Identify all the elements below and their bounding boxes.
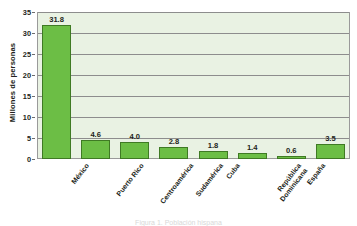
y-tick-mark-30 (32, 33, 35, 34)
x-label-line: Puerto Rico (115, 162, 146, 198)
y-axis-ticks: 05101520253035 (16, 0, 35, 226)
bar (120, 142, 149, 159)
bar-slot: 2.8 (159, 12, 188, 159)
bar-value-label: 1.4 (238, 143, 267, 152)
figure-caption: Figura 1. Población hispana (0, 219, 357, 226)
x-label-line: Centroamérica (158, 162, 195, 206)
x-label-line: Cuba (224, 162, 241, 181)
y-tick-mark-25 (32, 54, 35, 55)
bar-value-label: 2.8 (159, 137, 188, 146)
bars-layer: 31.84.64.02.81.81.40.63.5 (37, 12, 350, 159)
bar-slot: 31.8 (42, 12, 71, 159)
x-axis-label: Cuba (224, 162, 241, 181)
bar (42, 25, 71, 159)
y-tick-label-15: 15 (23, 92, 31, 101)
bar (81, 140, 110, 159)
bar-value-label: 0.6 (277, 146, 306, 155)
y-tick-label-30: 30 (23, 29, 31, 38)
bar-slot: 4.0 (120, 12, 149, 159)
y-tick-label-20: 20 (23, 71, 31, 80)
bar-chart: Millones de personas 05101520253035 31.8… (0, 0, 357, 226)
bar-slot: 1.4 (238, 12, 267, 159)
x-axis-labels: MéxicoPuerto RicoCentroaméricaSudamérica… (37, 160, 350, 220)
bar (316, 144, 345, 159)
x-label-line: España (306, 162, 328, 187)
bar (277, 156, 306, 159)
bar (199, 151, 228, 159)
bar-value-label: 4.0 (120, 132, 149, 141)
bar-value-label: 31.8 (42, 15, 71, 24)
x-axis-label: Centroamérica (158, 162, 195, 206)
y-tick-label-35: 35 (23, 8, 31, 17)
bar (159, 147, 188, 159)
bar (238, 153, 267, 159)
x-label-line: Sudamérica (194, 162, 225, 198)
y-tick-label-5: 5 (27, 134, 31, 143)
y-tick-mark-15 (32, 96, 35, 97)
x-axis-label: Puerto Rico (115, 162, 146, 198)
x-axis-label: España (306, 162, 328, 187)
x-label-line: México (70, 162, 91, 186)
y-tick-mark-5 (32, 138, 35, 139)
y-tick-mark-35 (32, 12, 35, 13)
bar-value-label: 1.8 (199, 141, 228, 150)
bar-slot: 0.6 (277, 12, 306, 159)
x-axis-label: México (70, 162, 91, 186)
y-tick-mark-10 (32, 117, 35, 118)
y-tick-label-25: 25 (23, 50, 31, 59)
y-tick-mark-0 (32, 159, 35, 160)
x-axis-label: RepúblicaDominicana (272, 162, 310, 204)
bar-slot: 1.8 (199, 12, 228, 159)
y-tick-label-10: 10 (23, 113, 31, 122)
bar-value-label: 3.5 (316, 134, 345, 143)
y-tick-mark-20 (32, 75, 35, 76)
bar-slot: 4.6 (81, 12, 110, 159)
bar-slot: 3.5 (316, 12, 345, 159)
x-axis-label: Sudamérica (194, 162, 225, 198)
bar-value-label: 4.6 (81, 130, 110, 139)
y-tick-label-0: 0 (27, 155, 31, 164)
